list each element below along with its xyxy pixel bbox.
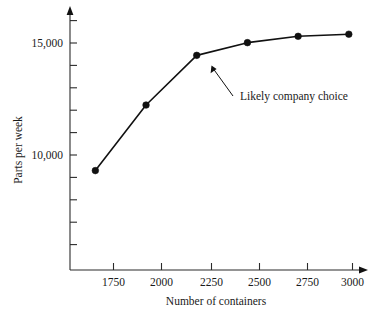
data-series <box>92 31 352 174</box>
data-point <box>193 52 200 59</box>
x-tick-label-3000: 3000 <box>341 276 364 288</box>
data-point <box>244 39 251 46</box>
data-point <box>295 33 302 40</box>
y-axis-arrow-icon <box>67 6 74 15</box>
y-axis-title: Parts per week <box>12 116 25 184</box>
y-tick-label-10000: 10,000 <box>31 149 63 162</box>
x-axis-title: Number of containers <box>166 295 267 307</box>
annotation-leader-line <box>214 69 234 96</box>
data-point <box>92 167 99 174</box>
chart-canvas: 15,000 10,000 Parts per week 1750 2000 2… <box>0 0 375 311</box>
x-tick-label-2500: 2500 <box>248 276 271 288</box>
y-tick-label-15000: 15,000 <box>31 37 63 50</box>
chart-figure: 15,000 10,000 Parts per week 1750 2000 2… <box>0 0 375 311</box>
data-point <box>143 102 150 109</box>
y-axis: 15,000 10,000 Parts per week <box>12 6 77 270</box>
data-point <box>346 31 353 38</box>
series-line-parts-per-week <box>95 34 348 170</box>
annotation-label: Likely company choice <box>240 90 348 103</box>
x-axis-arrow-icon <box>359 267 368 274</box>
x-tick-label-2000: 2000 <box>150 276 173 288</box>
x-tick-label-2750: 2750 <box>296 276 319 288</box>
x-tick-label-2250: 2250 <box>200 276 223 288</box>
annotation-likely-company-choice: Likely company choice <box>211 66 348 104</box>
series-markers <box>92 31 352 174</box>
x-axis: 1750 2000 2250 2500 2750 3000 Number of … <box>70 263 368 307</box>
x-tick-label-1750: 1750 <box>102 276 125 288</box>
